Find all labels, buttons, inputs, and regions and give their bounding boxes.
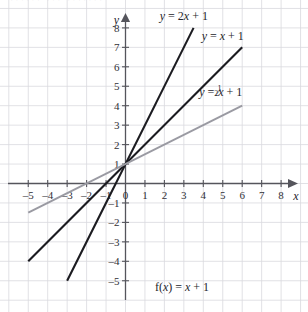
y-axis-tick-label: 2 [114, 139, 120, 151]
x-axis-tick-label: 4 [201, 189, 207, 201]
graph-figure: ······ ··· ······· –5–4–3–2–101234567887… [0, 0, 308, 312]
function-line-0 [67, 28, 193, 281]
label-tail: + 1 [189, 9, 208, 23]
y-axis-arrowhead-icon [121, 13, 130, 22]
function-labels: y = 2x + 1y = x + 1y = 1⁄2x + 1 [159, 9, 244, 99]
label-operator: = 2 [165, 9, 184, 23]
function-label-0: y = 2x + 1 [159, 9, 208, 23]
function-label-1: y = x + 1 [201, 29, 244, 43]
y-axis-tick-label: –2 [108, 216, 120, 228]
label-tail: + 1 [225, 29, 244, 43]
x-axis-tick-label: 7 [259, 189, 265, 201]
x-axis-tick-label: 1 [142, 189, 148, 201]
coordinate-plane: –5–4–3–2–101234567887654321–1–2–3–4–5 x … [0, 0, 308, 312]
x-axis-tick-label: 6 [239, 189, 245, 201]
function-line-2 [28, 106, 242, 213]
x-axis-label: x [292, 189, 299, 203]
function-line-1 [28, 47, 242, 261]
y-axis-tick-label: 7 [114, 41, 120, 53]
x-axis-tick-label: 8 [278, 189, 284, 201]
plotted-lines [28, 28, 242, 281]
label-operator: = [207, 29, 220, 43]
axis-lines [8, 13, 298, 300]
cut-off-header-text: ······ ··· ······· [10, 0, 104, 1]
x-axis-tick-label: 0 [123, 189, 129, 201]
figure-caption: f(x) = x + 1 [155, 280, 209, 294]
axis-tick-labels: –5–4–3–2–101234567887654321–1–2–3–4–5 [22, 22, 285, 287]
x-axis-tick-label: 2 [162, 189, 168, 201]
x-axis-tick-label: –4 [41, 189, 54, 201]
y-axis-tick-label: 6 [114, 61, 120, 73]
caption-f: f( [155, 280, 163, 294]
y-axis-label: y [113, 13, 120, 27]
axis-ticks [28, 28, 281, 281]
caption-tail: + 1 [190, 280, 209, 294]
y-axis-tick-label: –3 [108, 236, 121, 248]
grid-lines [0, 0, 308, 312]
y-axis-tick-label: 5 [114, 80, 120, 92]
y-axis-tick-label: –5 [108, 275, 121, 287]
function-label-2: y = 1⁄2x + 1 [198, 84, 242, 99]
y-axis-tick-label: 4 [114, 100, 120, 112]
x-axis-tick-label: 5 [220, 189, 226, 201]
y-axis-tick-label: 3 [114, 119, 120, 131]
y-axis-tick-label: –4 [108, 255, 121, 267]
label-tail: + 1 [224, 85, 243, 99]
x-axis-tick-label: –5 [22, 189, 35, 201]
x-axis-tick-label: 3 [181, 189, 187, 201]
x-axis-arrowhead-icon [288, 179, 298, 188]
caption-eq: ) = [168, 280, 185, 294]
